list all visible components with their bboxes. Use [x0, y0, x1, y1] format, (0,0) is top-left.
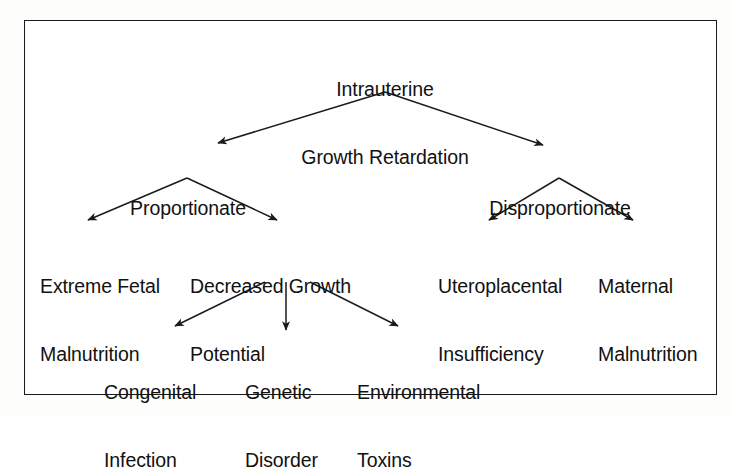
node-environmental-toxins-line2: Toxins [357, 449, 497, 471]
node-environmental-toxins: Environmental Toxins [357, 336, 497, 471]
node-maternal-malnutrition: Maternal Malnutrition [598, 230, 723, 410]
node-congenital-infection-line2: Infection [104, 449, 229, 471]
node-proportionate-label: Proportionate [110, 197, 266, 220]
node-disproportionate-label: Disproportionate [475, 197, 645, 220]
node-genetic-disorder-line2: Disorder [245, 449, 345, 471]
node-congenital-infection: Congenital Infection [104, 336, 229, 471]
node-root-line2: Growth Retardation [266, 146, 504, 169]
node-root: Intrauterine Growth Retardation [266, 33, 504, 213]
node-genetic-disorder-line1: Genetic [245, 381, 345, 404]
node-decreased-growth-potential-line1: Decreased Growth [190, 275, 360, 298]
node-uteroplacental-insufficiency-line1: Uteroplacental [438, 275, 588, 298]
node-extreme-fetal-malnutrition-line1: Extreme Fetal [40, 275, 185, 298]
node-root-line1: Intrauterine [266, 78, 504, 101]
node-maternal-malnutrition-line1: Maternal [598, 275, 723, 298]
node-environmental-toxins-line1: Environmental [357, 381, 497, 404]
node-genetic-disorder: Genetic Disorder [245, 336, 345, 471]
node-congenital-infection-line1: Congenital [104, 381, 229, 404]
node-maternal-malnutrition-line2: Malnutrition [598, 343, 723, 366]
